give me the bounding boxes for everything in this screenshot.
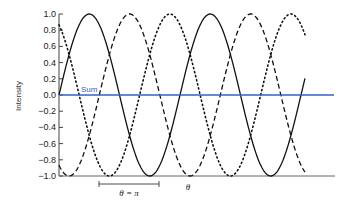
svg-text:−0.4: −0.4 (38, 122, 56, 132)
y-axis-label: Intensity (14, 81, 23, 111)
x-axis-label: θ (186, 182, 191, 192)
bracket-label: θ = π (119, 188, 139, 198)
svg-text:0.0: 0.0 (43, 90, 56, 100)
svg-text:0.6: 0.6 (43, 41, 56, 51)
svg-text:−0.2: −0.2 (38, 106, 56, 116)
svg-text:0.4: 0.4 (43, 58, 56, 68)
svg-text:0.8: 0.8 (43, 25, 56, 35)
svg-text:−1.0: −1.0 (38, 171, 56, 181)
svg-text:0.2: 0.2 (43, 74, 56, 84)
chart: 1.00.80.60.40.20.0−0.2−0.4−0.6−0.8−1.0 I… (0, 0, 352, 203)
sum-label: Sum (81, 85, 98, 94)
svg-text:−0.8: −0.8 (38, 155, 56, 165)
svg-text:−0.6: −0.6 (38, 139, 56, 149)
theta-pi-bracket (99, 181, 159, 187)
svg-text:1.0: 1.0 (43, 9, 56, 19)
